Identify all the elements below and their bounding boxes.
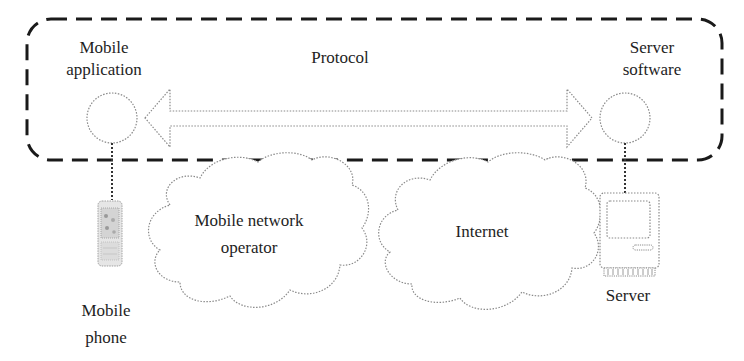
mobile-phone-label-line2: phone: [81, 324, 130, 351]
mobile-application-node: [87, 93, 137, 143]
mobile-network-operator-label: Mobile network operator: [194, 207, 303, 261]
mobile-phone-label: Mobile phone: [81, 297, 130, 351]
mobile-phone-label-line1: Mobile: [81, 297, 130, 324]
server-software-label-line1: Server: [623, 37, 682, 59]
server-label: Server: [606, 285, 650, 307]
server-software-label-line2: software: [623, 59, 682, 81]
server-software-node: [600, 93, 650, 143]
protocol-label: Protocol: [311, 47, 369, 69]
protocol-arrow: [145, 89, 592, 147]
server-software-label: Server software: [623, 37, 682, 81]
mobile-network-operator-label-line2: operator: [194, 234, 303, 261]
mobile-application-label: Mobile application: [66, 37, 142, 81]
mobile-network-operator-label-line1: Mobile network: [194, 207, 303, 234]
mobile-phone-icon: [98, 201, 122, 266]
internet-label: Internet: [456, 221, 509, 243]
mobile-application-label-line1: Mobile: [66, 37, 142, 59]
mobile-application-label-line2: application: [66, 59, 142, 81]
server-icon: [600, 193, 659, 276]
diagram-canvas: Mobile application Protocol Server softw…: [0, 0, 744, 361]
